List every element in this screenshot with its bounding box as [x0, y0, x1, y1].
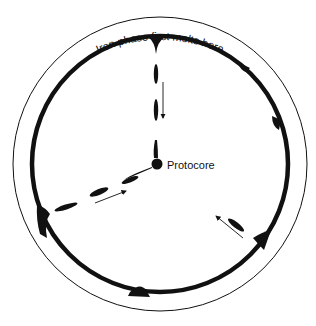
iron-streak-top — [154, 64, 159, 158]
iron-melt-label: Iron phase first melts here — [94, 30, 226, 55]
iron-streak-left — [54, 167, 152, 213]
iron-blob-lower-right — [226, 217, 245, 234]
planetary-differentiation-diagram: Protocore Iron phase first melts here — [0, 0, 316, 326]
iron-pool-left — [37, 204, 50, 238]
protocore-dot — [152, 159, 163, 170]
protocore-label: Protocore — [167, 159, 215, 171]
